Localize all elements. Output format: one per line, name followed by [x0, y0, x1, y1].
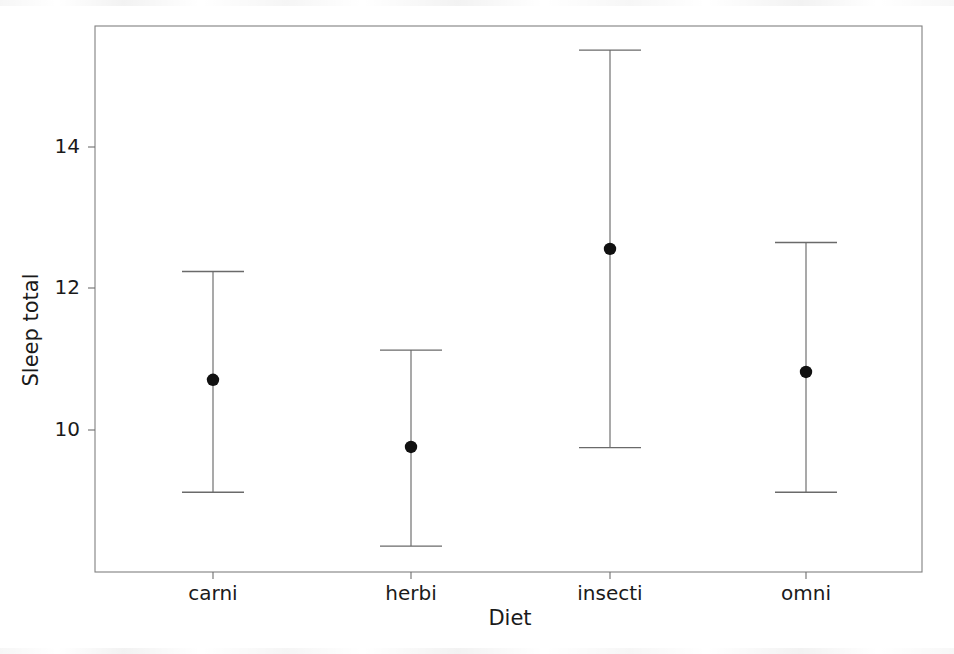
y-tick-14: 14 — [55, 134, 95, 158]
x-axis-ticks: carni herbi insecti omni — [188, 572, 831, 605]
errorbar-chart: 14 12 10 Sleep total carni herbi — [0, 0, 954, 654]
y-axis-ticks: 14 12 10 — [55, 134, 95, 441]
x-tick-label-herbi: herbi — [385, 581, 436, 605]
y-tick-10: 10 — [55, 417, 95, 441]
y-tick-label-14: 14 — [55, 134, 80, 158]
mean-point-carni — [207, 374, 219, 386]
errorbar-group-carni — [182, 272, 244, 493]
y-tick-label-10: 10 — [55, 417, 80, 441]
x-tick-herbi: herbi — [385, 572, 436, 605]
x-tick-carni: carni — [188, 572, 237, 605]
plot-frame — [95, 26, 922, 572]
data-series-errorbars — [182, 50, 837, 546]
x-tick-label-insecti: insecti — [577, 581, 642, 605]
x-tick-label-omni: omni — [781, 581, 831, 605]
errorbar-group-omni — [775, 243, 837, 493]
mean-point-insecti — [604, 243, 616, 255]
mean-point-herbi — [405, 441, 417, 453]
y-tick-label-12: 12 — [55, 275, 80, 299]
errorbar-group-insecti — [579, 50, 641, 448]
figure-canvas: 14 12 10 Sleep total carni herbi — [0, 0, 954, 654]
y-axis-title: Sleep total — [19, 273, 43, 386]
mean-point-omni — [800, 366, 812, 378]
y-tick-12: 12 — [55, 275, 95, 299]
x-tick-label-carni: carni — [188, 581, 237, 605]
errorbar-group-herbi — [380, 350, 442, 546]
x-tick-insecti: insecti — [577, 572, 642, 605]
x-axis-title: Diet — [488, 606, 531, 630]
x-tick-omni: omni — [781, 572, 831, 605]
